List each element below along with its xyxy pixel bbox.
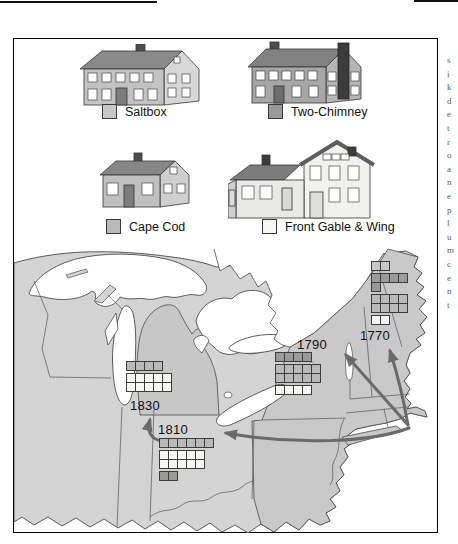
pictograph-row-cape_cod xyxy=(159,438,213,448)
cape_cod-symbol xyxy=(153,361,163,371)
pictograph-1770 xyxy=(371,262,407,325)
legend-label: Front Gable & Wing xyxy=(285,220,395,234)
two_chimney-symbol xyxy=(398,273,408,283)
front_gable-symbol xyxy=(380,315,390,325)
lattice-window xyxy=(229,190,235,206)
margin-fragment: t xyxy=(447,122,458,136)
pictograph-row-front_gable xyxy=(371,315,407,325)
door xyxy=(274,86,284,103)
cape_cod-symbol xyxy=(311,373,321,383)
margin-fragment: m xyxy=(447,244,458,258)
margin-fragment: k xyxy=(447,81,458,95)
margin-fragment: o xyxy=(447,149,458,163)
two-chimney-house-illustration xyxy=(246,40,374,106)
year-label-1810: 1810 xyxy=(158,422,188,437)
margin-fragment: e xyxy=(447,108,458,122)
cape_cod-symbol xyxy=(398,303,408,313)
legend-label: Cape Cod xyxy=(129,220,185,234)
margin-fragment: e xyxy=(447,272,458,286)
two_chimney-symbol xyxy=(371,282,381,292)
chimney-icon xyxy=(262,155,270,166)
legend-label: Saltbox xyxy=(125,105,167,119)
door xyxy=(124,185,134,207)
margin-fragment: p xyxy=(447,204,458,218)
two_chimney-symbol xyxy=(168,471,178,481)
saltbox-symbol xyxy=(380,261,390,271)
year-label-1830: 1830 xyxy=(130,398,160,413)
margin-fragment: t xyxy=(447,299,458,313)
door xyxy=(116,88,127,105)
margin-fragment: s xyxy=(447,54,458,68)
pictograph-row-cape_cod xyxy=(126,361,171,371)
margin-fragment: a xyxy=(447,163,458,177)
front_gable-symbol xyxy=(162,382,172,392)
margin-fragment: n xyxy=(447,176,458,190)
door xyxy=(310,192,323,218)
pictograph-row-two_chimney xyxy=(159,471,213,481)
cape-cod-house-illustration xyxy=(98,152,202,210)
lake-st-clair xyxy=(224,392,232,398)
two-chimney-swatch xyxy=(268,104,283,119)
pictograph-row-front_gable xyxy=(159,459,213,469)
margin-fragment: r xyxy=(447,136,458,150)
cape_cod-symbol xyxy=(204,438,214,448)
pictograph-row-front_gable xyxy=(275,385,320,395)
pictograph-1790 xyxy=(275,353,320,395)
legend-item-two-chimney: Two-Chimney xyxy=(268,104,367,119)
front-gable-and-wing-house-illustration xyxy=(228,140,378,222)
front_gable-symbol xyxy=(195,459,205,469)
margin-text-fragments: sikdetroaneplumcent xyxy=(447,54,458,354)
two_chimney-symbol xyxy=(302,352,312,362)
large-chimney-icon xyxy=(338,43,349,99)
margin-fragment: e xyxy=(447,190,458,204)
top-right-rule xyxy=(414,0,458,2)
legend-label: Two-Chimney xyxy=(291,105,367,119)
margin-fragment: c xyxy=(447,258,458,272)
margin-fragment: i xyxy=(447,68,458,82)
saltbox-house-illustration xyxy=(78,44,210,108)
year-label-1770: 1770 xyxy=(360,328,390,343)
front_gable-symbol xyxy=(302,385,312,395)
cape-cod-swatch xyxy=(106,219,121,234)
pictograph-row-saltbox xyxy=(371,261,407,271)
legend-item-saltbox: Saltbox xyxy=(102,104,167,119)
legend-item-cape-cod: Cape Cod xyxy=(106,219,185,234)
front-gable-swatch xyxy=(262,219,277,234)
year-label-1790: 1790 xyxy=(297,337,327,352)
pictograph-row-cape_cod xyxy=(275,373,320,383)
pictograph-row-front_gable xyxy=(126,382,171,392)
margin-fragment: u xyxy=(447,231,458,245)
pictograph-row-two_chimney xyxy=(371,282,407,292)
pictograph-1830 xyxy=(126,362,171,392)
door xyxy=(282,188,292,210)
top-left-rule xyxy=(0,1,157,3)
legend-item-front-gable: Front Gable & Wing xyxy=(262,219,395,234)
pictograph-1810 xyxy=(159,439,213,481)
margin-fragment: d xyxy=(447,95,458,109)
margin-fragment: n xyxy=(447,285,458,299)
margin-fragment: l xyxy=(447,217,458,231)
pictograph-row-two_chimney xyxy=(275,352,320,362)
pictograph-row-cape_cod xyxy=(371,303,407,313)
scanned-page: { "legend": { "items": [ {"id":"saltbox"… xyxy=(0,0,458,544)
saltbox-swatch xyxy=(102,104,117,119)
